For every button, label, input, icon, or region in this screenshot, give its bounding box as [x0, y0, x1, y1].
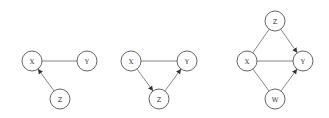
node-label: X	[30, 58, 35, 66]
arrow-z-y	[281, 29, 298, 53]
arrow-x-z	[137, 69, 153, 91]
graph-1: XYZ	[22, 51, 97, 109]
arrow-w-y	[281, 69, 297, 91]
arrow-z-x	[38, 69, 54, 91]
node-w: W	[265, 89, 285, 109]
causal-graphs-canvas: XYZ XYZ ZXYW	[0, 0, 329, 118]
node-x: X	[237, 51, 257, 71]
node-y: Y	[293, 51, 313, 71]
node-y: Y	[177, 51, 197, 71]
node-z: Z	[149, 89, 169, 109]
node-z: Z	[50, 89, 70, 109]
node-z: Z	[265, 11, 285, 31]
graph-2: XYZ	[121, 51, 197, 109]
node-x: X	[22, 51, 42, 71]
node-label: X	[129, 58, 134, 66]
graph-3: ZXYW	[237, 11, 313, 109]
arrow-z-y	[165, 69, 181, 91]
node-label: Z	[58, 96, 63, 104]
node-label: Z	[157, 96, 162, 104]
edge-x-w	[253, 69, 269, 91]
node-label: Y	[300, 58, 306, 66]
node-x: X	[121, 51, 141, 71]
node-label: Z	[273, 18, 278, 26]
node-label: W	[272, 96, 279, 104]
node-label: Y	[84, 58, 90, 66]
node-y: Y	[77, 51, 97, 71]
edge-z-x	[253, 29, 270, 53]
node-label: Y	[184, 58, 190, 66]
node-label: X	[245, 58, 250, 66]
